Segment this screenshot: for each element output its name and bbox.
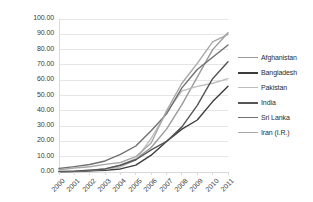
legend-item: Iran (I.R.) [238, 125, 313, 140]
legend-swatch-icon [238, 117, 258, 118]
legend-item: Pakistan [238, 80, 313, 95]
legend-swatch-icon [238, 57, 258, 58]
series-lines [59, 33, 228, 172]
legend-swatch-icon [238, 102, 258, 104]
y-axis-tick-label: 80.00 [8, 45, 54, 52]
legend-item: Bangladesh [238, 65, 313, 80]
legend-item-label: Bangladesh [261, 69, 297, 76]
legend-item: Sri Lanka [238, 110, 313, 125]
legend-item-label: Pakistan [261, 84, 287, 91]
series-line [59, 33, 228, 172]
line-chart: 0.0010.0020.0030.0040.0050.0060.0070.008… [0, 0, 313, 202]
series-line [59, 34, 228, 169]
series-line [59, 79, 228, 172]
y-axis-tick-label: 60.00 [8, 75, 54, 82]
legend-item: India [238, 95, 313, 110]
legend-swatch-icon [238, 72, 258, 74]
y-axis-tick-label: 20.00 [8, 136, 54, 143]
y-axis-tick-label: 40.00 [8, 106, 54, 113]
y-axis-tick-label: 30.00 [8, 121, 54, 128]
legend-item-label: Sri Lanka [261, 114, 290, 121]
legend-item-label: Iran (I.R.) [261, 129, 289, 136]
y-axis-tick-label: 70.00 [8, 60, 54, 67]
legend-swatch-icon [238, 87, 258, 88]
legend-swatch-icon [238, 132, 258, 133]
legend-item-label: Afghanistan [261, 54, 297, 61]
y-axis-tick-label: 0.00 [8, 167, 54, 174]
series-line [59, 62, 228, 172]
y-axis-tick-label: 50.00 [8, 91, 54, 98]
legend-item-label: India [261, 99, 276, 106]
y-axis-tick-label: 90.00 [8, 29, 54, 36]
y-axis-tick-label: 100.00 [8, 14, 54, 21]
series-line [59, 86, 228, 171]
chart-legend: AfghanistanBangladeshPakistanIndiaSri La… [238, 50, 313, 140]
y-axis-tick-label: 10.00 [8, 152, 54, 159]
legend-item: Afghanistan [238, 50, 313, 65]
